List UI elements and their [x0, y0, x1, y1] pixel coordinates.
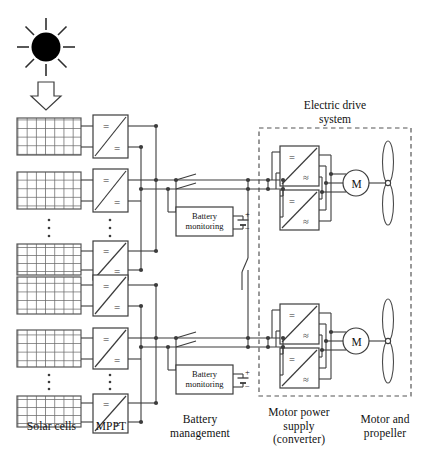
ellipsis-icon — [48, 374, 112, 391]
svg-text:M: M — [352, 336, 362, 348]
svg-text:=: = — [114, 196, 120, 208]
mppt-converter: = = — [93, 169, 128, 212]
drive-inverter: = ≈ — [280, 304, 319, 344]
battery-negative-terminal: − — [245, 382, 259, 392]
svg-text:≈: ≈ — [303, 374, 309, 385]
irradiance-arrow-icon — [31, 82, 61, 110]
svg-text:≈: ≈ — [303, 330, 309, 341]
mppt-converter: = = — [93, 328, 128, 369]
sun-icon — [17, 18, 75, 76]
battery-monitoring-label: Battery monitoring — [176, 212, 233, 231]
solar-panel — [17, 118, 81, 155]
mppt-converter: = = — [93, 115, 128, 158]
motor: M — [343, 328, 369, 354]
solar-panel — [17, 172, 81, 209]
svg-text:M: M — [352, 178, 362, 190]
battery-monitoring-label: Battery monitoring — [176, 370, 233, 389]
solar-panel — [17, 244, 81, 275]
battery-positive-terminal: + — [245, 368, 259, 378]
motor: M — [343, 170, 369, 196]
svg-text:=: = — [103, 280, 109, 292]
bus-switch — [242, 258, 248, 272]
svg-text:=: = — [289, 152, 295, 163]
caption-motor-power-supply: Motor power supply (converter) — [255, 406, 343, 447]
drive-inverter: = ≈ — [280, 146, 319, 186]
caption-mppt: MPPT — [78, 420, 144, 434]
caption-motor-and-propeller: Motor and propeller — [345, 413, 425, 440]
bus-switch — [176, 332, 196, 347]
svg-text:=: = — [103, 398, 109, 410]
drive-inverter: = ≈ — [280, 190, 319, 230]
solar-panel — [17, 277, 81, 314]
svg-text:=: = — [103, 174, 109, 186]
system-block-diagram: = = = = — [0, 0, 431, 475]
battery-positive-terminal: + — [245, 210, 259, 220]
mppt-converter: = = — [93, 241, 128, 280]
svg-text:=: = — [103, 333, 109, 345]
figure-root: = = = = — [0, 0, 431, 475]
mppt-converter: = = — [93, 275, 128, 316]
caption-battery-management: Battery management — [152, 413, 248, 440]
svg-text:=: = — [289, 354, 295, 365]
svg-text:≈: ≈ — [303, 216, 309, 227]
svg-text:=: = — [289, 310, 295, 321]
svg-text:=: = — [103, 120, 109, 132]
svg-text:=: = — [289, 196, 295, 207]
svg-text:=: = — [114, 301, 120, 313]
svg-text:=: = — [114, 142, 120, 154]
svg-text:≈: ≈ — [303, 172, 309, 183]
ellipsis-icon — [48, 219, 112, 238]
electric-drive-system-title: Electric drive system — [259, 99, 411, 126]
battery-negative-terminal: − — [245, 224, 259, 234]
bus-switch — [176, 174, 196, 189]
drive-inverter: = ≈ — [280, 348, 319, 388]
solar-panel — [17, 330, 81, 367]
svg-text:=: = — [103, 245, 109, 257]
svg-text:=: = — [114, 354, 120, 366]
